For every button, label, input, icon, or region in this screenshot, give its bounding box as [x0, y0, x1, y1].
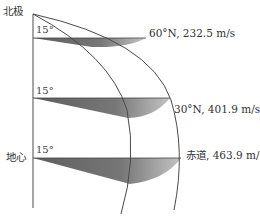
wedge-equator — [33, 158, 181, 184]
angle-label-30n: 15° — [36, 86, 54, 96]
angle-label-60n: 15° — [36, 25, 54, 35]
latitude-label-30n: 30°N, 401.9 m/s — [174, 104, 260, 115]
latitude-label-equator: 赤道, 463.9 m/s — [186, 150, 260, 161]
north-pole-label: 北极 — [3, 6, 23, 17]
earth-center-label: 地心 — [6, 152, 26, 163]
wedge-60n — [33, 38, 146, 47]
latitude-label-60n: 60°N, 232.5 m/s — [149, 28, 235, 39]
angle-label-equator: 15° — [36, 145, 54, 155]
wedge-30n — [33, 98, 170, 118]
